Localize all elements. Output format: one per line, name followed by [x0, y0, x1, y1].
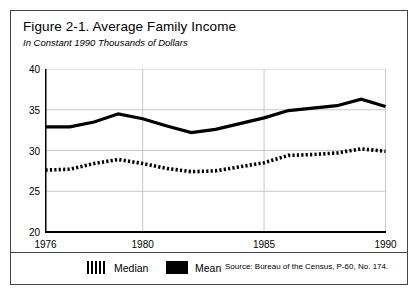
legend-separator [11, 252, 407, 253]
mean-swatch-icon [166, 261, 188, 274]
x-tick-label: 1990 [366, 239, 406, 250]
median-swatch-icon [87, 261, 107, 274]
legend-entry-median: Median [87, 261, 148, 274]
x-tick-label: 1976 [26, 239, 66, 250]
chart-plot-svg [45, 69, 386, 233]
legend-label-mean: Mean [195, 262, 221, 274]
figure-frame: Figure 2-1. Average Family Income In Con… [10, 10, 408, 285]
y-tick-label: 25 [18, 186, 40, 197]
plot-area: 2025303540 1976198019851990 [45, 69, 386, 233]
y-tick-label: 35 [18, 104, 40, 115]
y-tick-label: 20 [18, 227, 40, 238]
legend-label-median: Median [114, 262, 148, 274]
chart-subtitle: In Constant 1990 Thousands of Dollars [23, 37, 188, 48]
x-tick-label: 1980 [123, 239, 163, 250]
y-tick-label: 40 [18, 64, 40, 75]
chart-legend: Median Mean Source: Bureau of the Census… [11, 255, 407, 285]
grid-lines [45, 69, 386, 232]
chart-title: Figure 2-1. Average Family Income [23, 19, 236, 34]
source-note: Source: Bureau of the Census, P-60, No. … [225, 262, 388, 271]
y-tick-label: 30 [18, 145, 40, 156]
x-tick-label: 1985 [244, 239, 284, 250]
legend-entry-mean: Mean [166, 261, 221, 274]
